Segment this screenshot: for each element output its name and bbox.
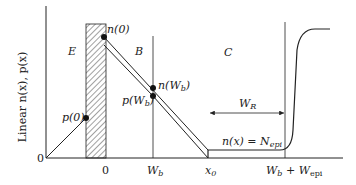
y-axis-label: Linear n(x), p(x) — [16, 52, 29, 142]
bjt-carrier-profile-diagram: Linear n(x), p(x) 0 E B C n(0) p(0) n(Wb… — [0, 0, 356, 185]
nepi-label: n(x) = Nepi — [222, 135, 283, 149]
nwb-label: n(Wb) — [158, 79, 190, 93]
emitter-hole-profile — [46, 118, 86, 158]
base-hole-profile-upper — [104, 45, 153, 96]
pwb-label: p(Wb) — [122, 94, 154, 108]
emitter-region-label: E — [67, 45, 76, 58]
x-tick-wb: Wb — [147, 164, 163, 178]
collector-region-label: C — [224, 46, 233, 59]
base-hole-profile — [153, 96, 208, 158]
base-electron-profile — [104, 37, 208, 150]
x-tick-x0: x0 — [205, 164, 216, 178]
x-tick-zero: 0 — [102, 164, 109, 177]
origin-label: 0 — [37, 152, 44, 165]
n0-label: n(0) — [107, 23, 130, 36]
p0-label: p(0) — [62, 111, 85, 124]
emitter-base-depletion-hatch — [86, 24, 106, 158]
x-tick-wb-plus-wepi: Wb + Wepi — [266, 164, 323, 178]
nwb-point — [150, 85, 156, 91]
wr-label: WR — [239, 97, 256, 111]
base-region-label: B — [134, 45, 143, 58]
